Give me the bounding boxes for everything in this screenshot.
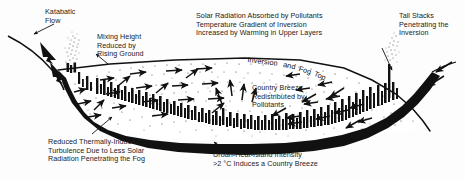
tall-stacks-leader — [382, 48, 392, 70]
katabatic-arrowheads — [40, 42, 66, 84]
tall-stack-right — [388, 64, 390, 98]
label-country-breeze: Country Breeze Redistributed by Pollutan… — [252, 84, 305, 110]
label-solar-radiation: Solar Radiation Absorbed by Pollutants T… — [196, 12, 323, 38]
katabatic-flow-curve — [8, 36, 64, 90]
label-reduced-turbulence: Reduced Thermally-Induced Turbulence Due… — [48, 138, 145, 164]
label-mixing-height: Mixing Height Reduced by Rising Ground — [97, 33, 144, 59]
label-tall-stacks: Tall Stacks Penetrating the Inversion — [399, 12, 449, 38]
katabatic-leader — [34, 24, 54, 34]
label-urban-heat-island: Urban-Heat-Island Intensity >2 °C Induce… — [213, 151, 318, 168]
smoke-plume-left-ridge — [65, 32, 80, 66]
label-katabatic-flow: Katabatic Flow — [45, 8, 75, 25]
